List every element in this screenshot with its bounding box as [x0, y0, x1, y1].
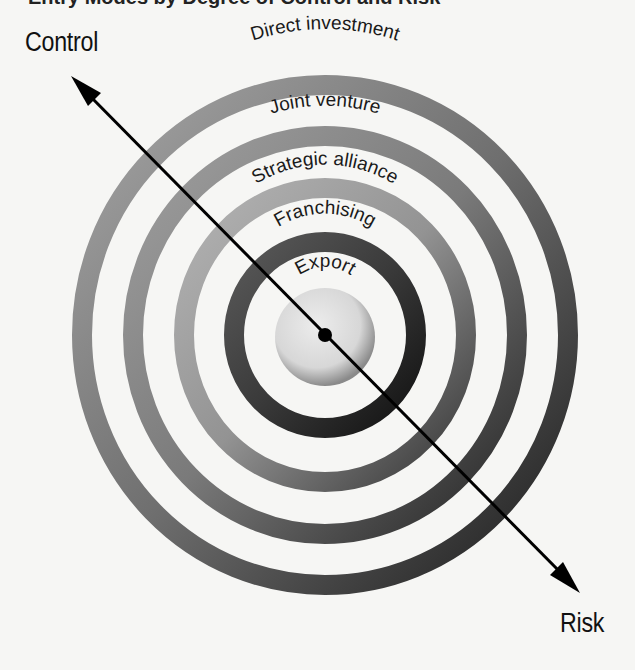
risk-label: Risk [560, 608, 604, 639]
center-dot [318, 328, 332, 342]
label-direct-investment: Direct investment [248, 12, 403, 45]
control-label: Control [25, 27, 98, 58]
concentric-ring-diagram: Direct investment Joint venture Strategi… [0, 0, 635, 670]
